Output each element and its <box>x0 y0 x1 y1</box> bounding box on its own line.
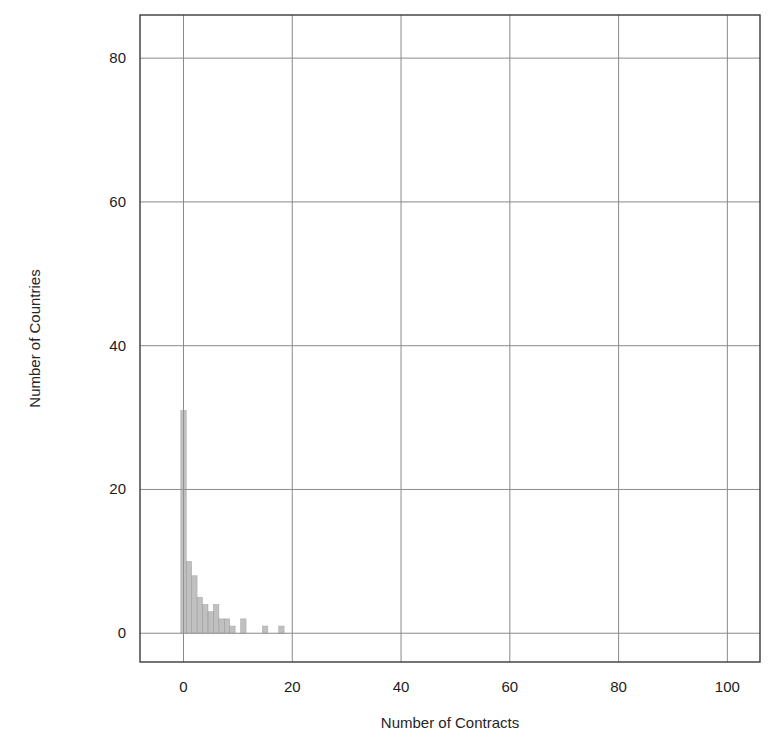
histogram-bar <box>181 410 186 633</box>
histogram-bar <box>219 619 224 633</box>
plot-canvas: 020406080100 020406080 <box>0 0 769 754</box>
histogram-bar <box>241 619 246 633</box>
x-axis-label: Number of Contracts <box>140 714 760 731</box>
histogram-bar <box>230 626 235 633</box>
histogram-bar <box>279 626 284 633</box>
plot-frame <box>140 15 760 662</box>
x-tick-label: 0 <box>179 678 187 695</box>
x-tick-labels: 020406080100 <box>179 678 740 695</box>
y-tick-label: 80 <box>109 49 126 66</box>
y-axis-label: Number of Countries <box>26 269 43 407</box>
y-tick-labels: 020406080 <box>109 49 126 641</box>
x-tick-label: 20 <box>284 678 301 695</box>
y-tick-label: 0 <box>118 624 126 641</box>
histogram-bar <box>186 561 191 633</box>
bar-series <box>181 410 284 633</box>
y-tick-label: 20 <box>109 480 126 497</box>
axes-frame <box>140 15 760 662</box>
histogram-bar <box>192 576 197 634</box>
histogram-bar <box>203 604 208 633</box>
x-tick-label: 80 <box>610 678 627 695</box>
y-tick-label: 40 <box>109 337 126 354</box>
grid-lines <box>140 15 760 662</box>
x-tick-label: 100 <box>715 678 740 695</box>
histogram-bar <box>262 626 267 633</box>
y-tick-label: 60 <box>109 193 126 210</box>
x-tick-label: 40 <box>393 678 410 695</box>
histogram-bar <box>197 597 202 633</box>
histogram-bar <box>224 619 229 633</box>
histogram-bar <box>213 604 218 633</box>
x-tick-label: 60 <box>501 678 518 695</box>
figure-histogram-number-of-contracts: Number of Countries Number of Contracts … <box>0 0 769 754</box>
histogram-bar <box>208 612 213 634</box>
